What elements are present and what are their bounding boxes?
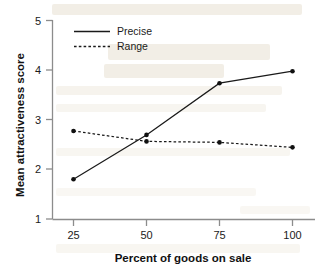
x-axis-ticks: 25 50 75 100 bbox=[67, 220, 301, 242]
x-tick-label-75: 75 bbox=[213, 229, 225, 241]
data-point-precise-50 bbox=[144, 133, 149, 138]
series-line-precise bbox=[74, 71, 293, 179]
chart-legend: Precise Range bbox=[74, 25, 152, 52]
y-tick-label-4: 4 bbox=[35, 64, 41, 76]
y-tick-label-1: 1 bbox=[35, 213, 41, 225]
y-axis-ticks: 5 4 3 2 1 bbox=[35, 15, 53, 226]
y-tick-label-3: 3 bbox=[35, 114, 41, 126]
y-tick-label-2: 2 bbox=[35, 163, 41, 175]
line-chart-plot: Mean attractiveness score 5 4 3 2 1 25 5… bbox=[0, 0, 322, 276]
x-tick-label-50: 50 bbox=[140, 229, 152, 241]
data-point-range-100 bbox=[290, 145, 295, 150]
series-markers-precise bbox=[71, 69, 295, 182]
legend-label-range: Range bbox=[117, 40, 148, 52]
y-axis-title: Mean attractiveness score bbox=[14, 53, 26, 197]
y-tick-label-5: 5 bbox=[35, 15, 41, 27]
x-axis-title: Percent of goods on sale bbox=[115, 252, 252, 264]
x-tick-label-25: 25 bbox=[67, 229, 79, 241]
chart-figure: Mean attractiveness score 5 4 3 2 1 25 5… bbox=[0, 0, 322, 276]
data-point-range-75 bbox=[217, 140, 222, 145]
data-point-range-50 bbox=[144, 139, 149, 144]
data-point-precise-75 bbox=[217, 81, 222, 86]
data-point-precise-100 bbox=[290, 69, 295, 74]
data-point-precise-25 bbox=[71, 177, 76, 182]
legend-label-precise: Precise bbox=[117, 25, 152, 37]
data-point-range-25 bbox=[71, 129, 76, 134]
series-line-range bbox=[74, 131, 293, 147]
x-tick-label-100: 100 bbox=[283, 229, 301, 241]
series-markers-range bbox=[71, 129, 295, 150]
